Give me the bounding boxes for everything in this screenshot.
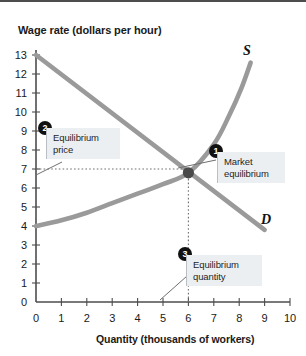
x-tick-label: 5: [160, 312, 166, 324]
y-tick-label: 5: [21, 201, 27, 213]
y-tick-label: 11: [16, 87, 27, 99]
y-tick-label: 6: [21, 182, 27, 194]
callout-equilibrium-price: Equilibrium price: [46, 128, 120, 159]
x-tick-label: 6: [185, 312, 191, 324]
figure-frame: Wage rate (dollars per hour) 01234567891…: [0, 0, 306, 356]
y-tick-label: 1: [21, 277, 27, 289]
x-tick-label: 10: [284, 312, 296, 324]
y-tick-label: 13: [15, 49, 27, 61]
x-tick-label: 9: [262, 312, 268, 324]
x-tick-label: 0: [33, 312, 39, 324]
y-tick-label: 3: [21, 239, 27, 251]
y-tick-label: 4: [21, 220, 27, 232]
x-tick-label: 2: [84, 312, 90, 324]
y-tick-label: 0: [21, 296, 27, 308]
x-tick-label: 4: [135, 312, 141, 324]
x-tick-label: 3: [109, 312, 115, 324]
equilibrium-marker: [183, 167, 194, 178]
callout-market-equilibrium: Market equilibrium: [217, 152, 285, 183]
x-tick-label: 1: [58, 312, 64, 324]
y-tick-label: 8: [21, 144, 27, 156]
callout-equilibrium-quantity: Equilibrium quantity: [186, 255, 262, 286]
y-tick-label: 7: [21, 163, 27, 175]
x-tick-label: 7: [211, 312, 217, 324]
x-tick-label: 8: [236, 312, 242, 324]
y-tick-label: 9: [21, 125, 27, 137]
y-tick-label: 2: [21, 258, 27, 270]
x-axis-title: Quantity (thousands of workers): [96, 333, 255, 345]
supply-curve-label: S: [243, 43, 251, 58]
demand-curve-label: D: [260, 212, 271, 227]
y-tick-label: 12: [15, 68, 27, 80]
y-tick-label: 10: [15, 106, 27, 118]
